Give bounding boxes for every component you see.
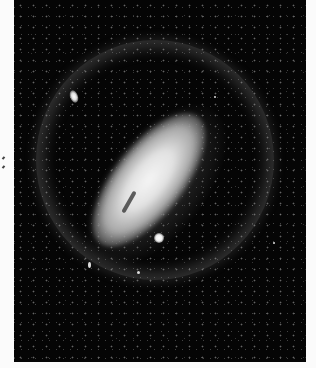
galaxy-photograph: [14, 0, 306, 362]
companion-object-bright: [154, 233, 164, 243]
star: [88, 262, 91, 268]
margin-mark: [2, 156, 5, 160]
star: [214, 96, 216, 98]
margin-mark: [2, 165, 5, 169]
star: [273, 242, 275, 244]
star: [137, 271, 140, 274]
